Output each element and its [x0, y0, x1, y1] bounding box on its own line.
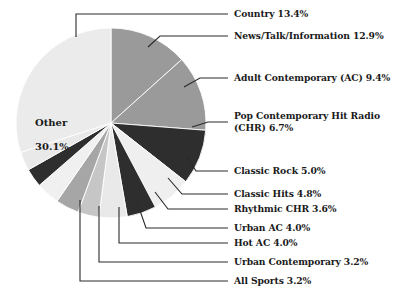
callout-label-all-sports: All Sports 3.2% [234, 275, 311, 287]
callout-label-pop-chr-line2: (CHR) 6.7% [234, 122, 293, 133]
callout-label-pop-chr-line1: Pop Contemporary Hit Radio [234, 110, 380, 121]
callout-label-hot-ac: Hot AC 4.0% [234, 237, 298, 249]
callout-label-adult-contemporary: Adult Contemporary (AC) 9.4% [234, 72, 390, 84]
callout-label-news-talk: News/Talk/Information 12.9% [234, 30, 384, 42]
other-label-value: 30.1% [35, 141, 69, 153]
callout-label-urban-contemporary: Urban Contemporary 3.2% [234, 256, 368, 268]
callout-label-urban-ac: Urban AC 4.0% [234, 222, 310, 234]
callout-label-country: Country 13.4% [234, 8, 308, 20]
callout-label-rhythmic-chr: Rhythmic CHR 3.6% [234, 203, 336, 215]
callout-label-pop-chr: Pop Contemporary Hit Radio (CHR) 6.7% [234, 110, 384, 133]
callout-label-classic-rock: Classic Rock 5.0% [234, 165, 325, 177]
callout-label-classic-hits: Classic Hits 4.8% [234, 188, 321, 200]
other-label-name: Other [35, 117, 69, 129]
slice-inner-label-other: Other 30.1% [35, 105, 69, 165]
pie-chart-figure: Other 30.1% Country 13.4% News/Talk/Info… [0, 0, 415, 295]
